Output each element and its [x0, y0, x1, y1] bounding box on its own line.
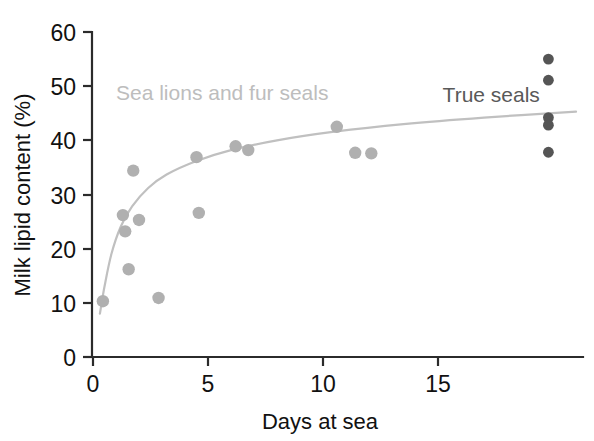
data-point — [365, 147, 377, 159]
y-tick-label-0: 0 — [63, 345, 76, 371]
data-point — [543, 120, 554, 131]
data-point — [117, 209, 129, 221]
data-point — [229, 140, 241, 152]
data-point — [127, 164, 139, 176]
data-point — [190, 151, 202, 163]
data-point — [543, 147, 554, 158]
data-point — [122, 263, 134, 275]
x-tick-label-15: 15 — [425, 371, 451, 397]
x-tick-label-5: 5 — [202, 371, 215, 397]
data-point — [119, 225, 131, 237]
data-point — [193, 207, 205, 219]
data-point — [543, 75, 554, 86]
y-tick-label-60: 60 — [50, 20, 76, 46]
chart-figure: 60 50 40 30 20 10 0 0 5 10 15 Days at se… — [0, 0, 594, 441]
data-point — [349, 147, 361, 159]
x-tick-label-0: 0 — [87, 371, 100, 397]
data-point — [543, 54, 554, 65]
x-axis-title: Days at sea — [262, 409, 379, 434]
data-point — [242, 144, 254, 156]
scatter-plot-svg: 60 50 40 30 20 10 0 0 5 10 15 Days at se… — [0, 0, 594, 441]
data-point — [133, 214, 145, 226]
data-point — [331, 121, 343, 133]
data-point — [152, 292, 164, 304]
y-tick-label-30: 30 — [50, 183, 76, 209]
data-point — [97, 295, 109, 307]
y-tick-label-10: 10 — [50, 291, 76, 317]
series-label-sea-lions-fur-seals: Sea lions and fur seals — [116, 81, 328, 104]
y-tick-label-50: 50 — [50, 74, 76, 100]
y-tick-label-40: 40 — [50, 128, 76, 154]
y-tick-label-20: 20 — [50, 237, 76, 263]
series-label-true-seals: True seals — [443, 83, 540, 106]
y-axis-title: Milk lipid content (%) — [10, 94, 35, 297]
x-tick-label-10: 10 — [310, 371, 336, 397]
